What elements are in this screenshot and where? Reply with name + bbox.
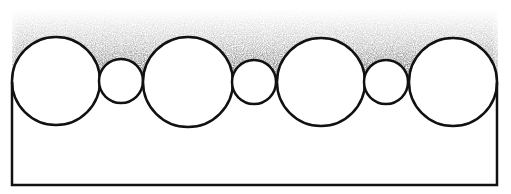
circle-packing-diagram (0, 0, 511, 194)
large-circle-7 (409, 38, 497, 126)
small-circle-4 (232, 60, 276, 104)
small-circle-6 (364, 60, 408, 104)
circle-group (12, 37, 497, 185)
large-circle-3 (143, 37, 233, 127)
large-circle-1 (12, 37, 100, 125)
large-circle-5 (277, 38, 365, 126)
small-circle-2 (99, 59, 143, 103)
